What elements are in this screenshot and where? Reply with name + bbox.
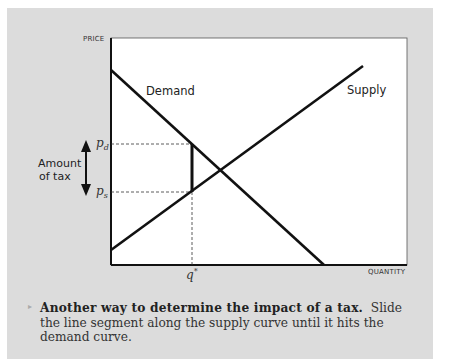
tax-label-line1: Amount: [38, 157, 81, 170]
figure-caption: Another way to determine the impact of a…: [40, 301, 425, 345]
x-axis-label: QUANTITY: [368, 268, 405, 276]
q-base: q: [186, 268, 194, 282]
plot-area: [111, 38, 407, 265]
amount-of-tax-label: Amount of tax: [38, 157, 81, 183]
q-sup: *: [194, 267, 198, 276]
tax-label-line2: of tax: [38, 170, 81, 183]
pd-sub: d: [104, 143, 109, 152]
caption-bullet-icon: ▸: [28, 303, 32, 311]
demand-label: Demand: [146, 84, 195, 98]
ps-label: ps: [96, 184, 108, 200]
ps-base: p: [96, 184, 104, 198]
ps-sub: s: [104, 191, 108, 200]
caption-title: Another way to determine the impact of a…: [40, 301, 363, 315]
y-axis-label: PRICE: [83, 35, 104, 43]
q-star-label: q*: [186, 267, 198, 282]
supply-label: Supply: [347, 83, 386, 97]
pd-base: p: [96, 136, 104, 150]
tax-double-arrow-icon: [81, 140, 91, 196]
pd-label: pd: [96, 136, 109, 152]
